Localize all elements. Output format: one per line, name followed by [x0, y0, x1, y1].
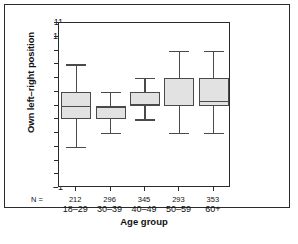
whisker-lower	[213, 106, 214, 134]
cap-lower	[66, 147, 86, 148]
median-line	[164, 78, 194, 79]
n-row-label: N =	[31, 195, 43, 204]
cap-upper	[204, 51, 224, 52]
whisker-lower	[179, 106, 180, 134]
box-plot-item[interactable]	[61, 23, 91, 188]
median-line	[199, 101, 229, 102]
cap-upper	[66, 64, 86, 65]
x-category-label: 60+	[205, 204, 220, 214]
cap-upper	[101, 92, 121, 93]
n-value: 212	[69, 195, 82, 204]
box-plot-item[interactable]	[164, 23, 194, 188]
x-tick-mark	[178, 187, 179, 191]
median-line	[130, 104, 160, 105]
figure-caption	[8, 214, 290, 226]
whisker-upper	[213, 51, 214, 79]
x-tick-mark	[213, 187, 214, 191]
n-value: 293	[172, 195, 185, 204]
x-tick-mark	[75, 187, 76, 191]
whisker-upper	[110, 92, 111, 106]
whisker-lower	[110, 119, 111, 133]
median-line	[96, 107, 126, 108]
cap-upper	[135, 78, 155, 79]
box-plot-item[interactable]	[96, 23, 126, 188]
whisker-lower	[76, 119, 77, 147]
box-iqr-rect	[164, 78, 194, 106]
whisker-lower	[144, 106, 145, 120]
y-tick-mark	[54, 187, 58, 188]
cap-lower	[169, 133, 189, 134]
figure-panel: Own left–right position 11109876543210–1…	[4, 4, 290, 208]
n-value: 353	[207, 195, 220, 204]
cap-upper	[169, 51, 189, 52]
whisker-upper	[144, 78, 145, 92]
whisker-upper	[76, 64, 77, 92]
box-plot-item[interactable]	[199, 23, 229, 188]
whisker-upper	[179, 51, 180, 79]
x-category-label: 50–59	[166, 204, 191, 214]
n-value: 345	[138, 195, 151, 204]
plot-area	[58, 22, 230, 187]
x-tick-mark	[144, 187, 145, 191]
cap-lower	[204, 133, 224, 134]
n-value: 296	[103, 195, 116, 204]
x-category-label: 30–39	[97, 204, 122, 214]
cap-lower	[135, 119, 155, 120]
cap-lower	[101, 133, 121, 134]
x-category-label: 40–49	[131, 204, 156, 214]
x-tick-mark	[110, 187, 111, 191]
median-line	[61, 106, 91, 107]
x-category-label: 18–29	[63, 204, 88, 214]
box-plot-item[interactable]	[130, 23, 160, 188]
